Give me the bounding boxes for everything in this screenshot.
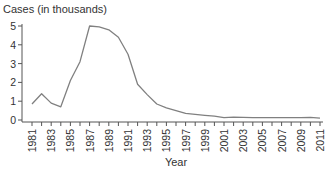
data-point <box>99 26 100 27</box>
data-point <box>185 113 186 114</box>
x-tick-label: 2003 <box>237 129 249 153</box>
data-point <box>281 117 282 118</box>
data-point <box>223 117 224 118</box>
data-point <box>252 117 253 118</box>
plot-area <box>31 25 320 118</box>
data-point <box>108 29 109 30</box>
data-point <box>70 80 71 81</box>
data-point <box>41 93 42 94</box>
data-point <box>291 117 292 118</box>
x-tick-label: 2007 <box>276 129 288 153</box>
chart-title: Cases (in thousands) <box>3 3 107 15</box>
y-tick-label: 5 <box>10 20 16 32</box>
x-tick-label: 1981 <box>26 129 38 153</box>
data-point <box>175 110 176 111</box>
data-point <box>31 103 32 104</box>
x-tick-label: 1989 <box>103 129 115 153</box>
data-point <box>319 118 320 119</box>
x-tick-label: 1995 <box>160 129 172 153</box>
data-point <box>310 117 311 118</box>
data-point <box>271 117 272 118</box>
y-tick-label: 4 <box>10 39 16 51</box>
line-chart: Cases (in thousands) 012345 198119831985… <box>0 0 331 172</box>
y-tick-label: 0 <box>10 114 16 126</box>
x-tick-label: 1991 <box>122 129 134 153</box>
data-point <box>166 107 167 108</box>
x-tick-label: 1999 <box>199 129 211 153</box>
data-point <box>137 84 138 85</box>
x-axis: 1981198319851987198919911993199519971999… <box>22 122 326 152</box>
y-axis: 012345 <box>10 20 22 126</box>
data-point <box>204 115 205 116</box>
data-point <box>60 106 61 107</box>
data-point <box>89 25 90 26</box>
x-tick-label: 2005 <box>256 129 268 153</box>
series-line-cases <box>32 26 320 118</box>
data-point <box>195 114 196 115</box>
data-point <box>262 117 263 118</box>
data-point <box>300 117 301 118</box>
x-tick-label: 1985 <box>64 129 76 153</box>
x-tick-label: 1987 <box>84 129 96 153</box>
x-tick-label: 1997 <box>180 129 192 153</box>
data-point <box>51 102 52 103</box>
x-tick-label: 2001 <box>218 129 230 153</box>
data-point <box>147 94 148 95</box>
data-point <box>233 117 234 118</box>
data-point <box>156 103 157 104</box>
x-tick-label: 2011 <box>314 129 326 152</box>
y-tick-label: 1 <box>10 95 16 107</box>
x-tick-label: 2009 <box>295 129 307 153</box>
x-axis-label: Year <box>165 156 188 168</box>
data-point <box>79 61 80 62</box>
data-point <box>127 54 128 55</box>
x-tick-label: 1983 <box>45 129 57 153</box>
data-point <box>214 116 215 117</box>
x-tick-label: 1993 <box>141 129 153 153</box>
data-point <box>118 37 119 38</box>
y-tick-label: 3 <box>10 58 16 70</box>
y-tick-label: 2 <box>10 76 16 88</box>
data-point <box>243 117 244 118</box>
